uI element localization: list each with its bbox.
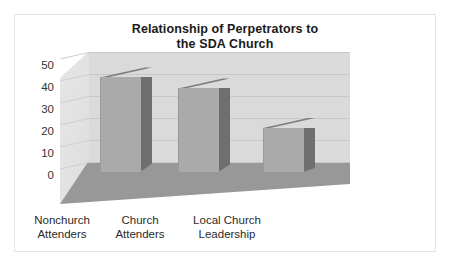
bar-front-face-2	[263, 128, 304, 172]
chart-title: Relationship of Perpetrators to the SDA …	[14, 22, 436, 52]
y-tick-label-20: 20	[41, 125, 54, 137]
category-label-2: Local ChurchLeadership	[167, 213, 287, 241]
chart-page: Relationship of Perpetrators to the SDA …	[0, 0, 454, 271]
y-tick-label-40: 40	[41, 81, 54, 93]
bar-front-face-0	[100, 77, 141, 172]
chart-title-line-1: Relationship of Perpetrators to	[14, 22, 436, 37]
bar-1	[178, 88, 218, 172]
gridline-50	[88, 52, 350, 53]
bar-side-face-0	[140, 77, 152, 172]
y-tick-label-0: 0	[48, 169, 54, 181]
category-label-2-line-1: Leadership	[167, 227, 287, 241]
bar-side-face-2	[303, 128, 315, 172]
chart-title-line-2: the SDA Church	[14, 37, 436, 52]
bar-0	[100, 77, 140, 172]
y-tick-label-30: 30	[41, 103, 54, 115]
y-tick-label-10: 10	[41, 147, 54, 159]
bar-front-face-1	[178, 88, 219, 172]
gridline-40	[88, 74, 350, 75]
y-tick-label-50: 50	[41, 59, 54, 71]
bar-side-face-1	[218, 88, 230, 172]
category-label-2-line-0: Local Church	[167, 213, 287, 227]
plot-area: 01020304050	[60, 52, 350, 204]
bar-2	[263, 128, 303, 172]
